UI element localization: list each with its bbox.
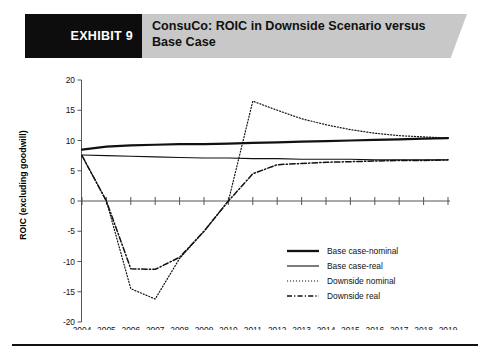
- x-tick-label: 2009: [195, 325, 214, 330]
- legend-item-downside-real: Downside real: [286, 288, 446, 303]
- x-tick-label: 2011: [244, 325, 262, 330]
- x-tick-label: 2018: [414, 325, 433, 330]
- series-line: [82, 138, 448, 150]
- series-line: [82, 155, 448, 160]
- legend-swatch-solid-thick: [286, 245, 320, 257]
- x-tick-label: 2010: [219, 325, 238, 330]
- x-tick-label: 2019: [439, 325, 458, 330]
- y-tick-label: -5: [68, 226, 76, 236]
- page-title: ConsuCo: ROIC in Downside Scenario versu…: [152, 18, 452, 50]
- legend-label: Base case-real: [327, 261, 383, 271]
- legend-swatch-dash-dot: [286, 290, 320, 302]
- legend-label: Downside nominal: [327, 276, 395, 286]
- x-tick-label: 2015: [341, 325, 360, 330]
- legend-item-base-case-nominal: Base case-nominal: [286, 243, 446, 258]
- x-tick-label: 2017: [390, 325, 409, 330]
- legend-swatch-solid-thin: [286, 260, 320, 272]
- legend-label: Downside real: [327, 291, 380, 301]
- y-tick-label: 0: [70, 196, 75, 206]
- y-tick-label: 10: [66, 136, 76, 146]
- exhibit-header: EXHIBIT 9 ConsuCo: ROIC in Downside Scen…: [0, 14, 491, 58]
- legend-label: Base case-nominal: [327, 246, 398, 256]
- x-tick-label: 2012: [268, 325, 287, 330]
- x-tick-label: 2005: [97, 325, 116, 330]
- exhibit-label: EXHIBIT 9: [71, 30, 142, 43]
- y-tick-label: -15: [63, 287, 75, 297]
- y-tick-label: 20: [66, 75, 76, 85]
- x-tick-label: 2006: [121, 325, 140, 330]
- x-tick-label: 2013: [292, 325, 311, 330]
- bottom-divider: [12, 344, 478, 346]
- x-tick-label: 2014: [317, 325, 336, 330]
- y-tick-label: 15: [66, 105, 76, 115]
- x-tick-label: 2004: [73, 325, 92, 330]
- legend-item-base-case-real: Base case-real: [286, 258, 446, 273]
- x-tick-label: 2008: [170, 325, 189, 330]
- legend-swatch-dotted: [286, 275, 320, 287]
- legend-item-downside-nominal: Downside nominal: [286, 273, 446, 288]
- x-tick-label: 2016: [365, 325, 384, 330]
- chart-legend: Base case-nominal Base case-real Downsid…: [286, 243, 446, 303]
- x-tick-label: 2007: [146, 325, 165, 330]
- y-tick-label: -10: [63, 257, 75, 267]
- exhibit-number-block: EXHIBIT 9: [25, 14, 142, 58]
- y-tick-label: 5: [70, 166, 75, 176]
